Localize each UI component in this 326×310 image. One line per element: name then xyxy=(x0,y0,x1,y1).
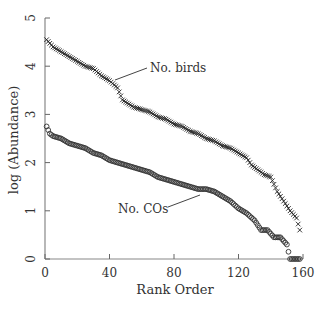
y-tick-label: 1 xyxy=(24,207,38,215)
series-cos xyxy=(44,124,302,261)
rank-abundance-chart: 04080120160012345 Rank Order log (Abunda… xyxy=(0,0,326,310)
marker-x xyxy=(118,94,123,99)
x-tick-label: 80 xyxy=(166,266,181,280)
marker-x xyxy=(281,199,286,204)
y-tick-label: 2 xyxy=(24,159,38,167)
marker-x xyxy=(296,222,301,227)
annotation-leader-birds xyxy=(115,68,147,80)
marker-circle xyxy=(286,249,291,254)
marker-x xyxy=(297,228,302,233)
x-tick-label: 40 xyxy=(102,266,117,280)
y-axis-title: log (Abundance) xyxy=(6,86,21,194)
marker-x xyxy=(285,204,290,209)
y-tick-label: 5 xyxy=(24,14,38,22)
annotation-birds: No. birds xyxy=(150,61,206,75)
x-tick-label: 0 xyxy=(41,266,49,280)
axes: 04080120160012345 xyxy=(24,14,314,280)
marker-x xyxy=(277,192,282,197)
marker-x xyxy=(278,194,283,199)
marker-x xyxy=(246,158,251,163)
annotation-cos: No. COs xyxy=(118,202,168,216)
x-tick-label: 120 xyxy=(227,266,250,280)
y-tick-label: 4 xyxy=(24,62,38,70)
marker-x xyxy=(280,196,285,201)
marker-x xyxy=(283,201,288,206)
marker-x xyxy=(286,206,291,211)
y-tick-label: 3 xyxy=(24,111,38,119)
marker-x xyxy=(117,90,122,95)
x-axis-title: Rank Order xyxy=(136,282,214,297)
marker-x xyxy=(294,216,299,221)
y-tick-label: 0 xyxy=(24,255,38,263)
marker-x xyxy=(115,86,120,91)
annotation-leader-cos xyxy=(168,195,200,207)
x-tick-label: 160 xyxy=(292,266,315,280)
